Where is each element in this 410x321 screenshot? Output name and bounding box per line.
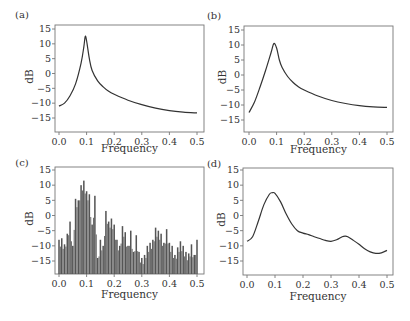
bar: [76, 207, 77, 274]
y-tick-label: 10: [228, 39, 240, 50]
x-axis-title: Frequency: [101, 288, 158, 300]
bar: [187, 260, 188, 274]
x-axis: 0.00.10.20.30.40.5: [51, 274, 204, 289]
bar: [107, 224, 108, 274]
bar: [163, 243, 165, 274]
y-tick-label: 10: [39, 38, 51, 49]
bar: [176, 259, 177, 274]
bar: [169, 243, 171, 274]
bar: [98, 256, 99, 274]
bar: [78, 200, 80, 274]
bar: [91, 225, 93, 274]
bar: [133, 252, 135, 274]
bar: [85, 194, 86, 274]
bar: [165, 244, 166, 274]
bar: [156, 237, 157, 274]
x-tick-label: 0.5: [189, 278, 204, 289]
x-tick-label: 0.0: [241, 136, 256, 147]
bar: [159, 240, 160, 274]
bar: [80, 185, 82, 274]
bar: [147, 246, 149, 274]
bar: [130, 231, 132, 274]
bar: [184, 256, 185, 274]
bar: [83, 181, 85, 274]
x-axis-title: Frequency: [290, 143, 347, 155]
x-axis-title: Frequency: [101, 142, 158, 154]
bar: [110, 228, 111, 274]
y-tick-label: −10: [220, 99, 240, 110]
bar: [179, 252, 180, 274]
bar: [126, 247, 127, 274]
bar: [195, 255, 196, 274]
bar: [58, 240, 60, 274]
bar: [68, 235, 69, 274]
panel-label: (b): [207, 10, 221, 21]
y-tick-label: 15: [227, 164, 239, 175]
y-tick-label: −15: [219, 255, 239, 266]
spectrum-line: [59, 36, 197, 113]
bar: [173, 258, 174, 274]
bar: [123, 237, 124, 274]
x-tick-label: 0.2: [295, 279, 310, 290]
bar: [177, 247, 179, 274]
bar: [105, 211, 107, 274]
figure: −15−10−50510150.00.10.20.30.40.5Frequenc…: [0, 0, 410, 321]
bar: [94, 196, 96, 274]
y-tick-label: −5: [225, 225, 239, 236]
bar: [96, 234, 97, 274]
bar: [144, 255, 146, 274]
bar: [148, 252, 149, 274]
bar: [112, 229, 113, 274]
bar: [86, 191, 88, 274]
bar: [138, 252, 140, 274]
bar: [121, 244, 122, 274]
spectrum-line: [247, 192, 387, 253]
y-tick-label: 15: [39, 23, 51, 34]
panel-b: −15−10−50510150.00.10.20.30.40.5Frequenc…: [207, 10, 395, 155]
axes-frame: [243, 168, 393, 275]
bar: [87, 200, 88, 274]
y-axis-title: dB: [215, 212, 227, 227]
x-tick-label: 0.4: [162, 278, 177, 289]
y-tick-label: 5: [233, 195, 239, 206]
panel-label: (c): [15, 157, 29, 168]
bar: [136, 235, 138, 274]
bar: [72, 246, 74, 274]
y-tick-label: −5: [37, 83, 51, 94]
bar: [190, 256, 191, 274]
bar: [65, 247, 66, 274]
bar: [158, 231, 160, 274]
y-tick-label: −15: [31, 112, 51, 123]
bar: [116, 240, 118, 274]
x-tick-label: 0.4: [162, 136, 177, 147]
bar: [122, 226, 124, 274]
bar: [69, 222, 71, 274]
bar: [185, 252, 187, 274]
bar: [100, 240, 102, 274]
bar: [63, 249, 64, 274]
bar: [113, 225, 115, 274]
y-tick-label: −5: [226, 84, 240, 95]
y-tick-label: −15: [220, 114, 240, 125]
bar: [140, 263, 141, 274]
x-axis-title: Frequency: [290, 290, 347, 302]
y-tick-label: 0: [233, 210, 239, 221]
bar: [196, 240, 198, 274]
bar: [182, 246, 184, 274]
bar: [118, 250, 119, 274]
bar: [90, 217, 91, 274]
x-axis: 0.00.10.20.30.40.5: [239, 275, 394, 290]
bar: [155, 228, 157, 274]
bar: [82, 190, 83, 274]
y-tick-label: 0: [234, 69, 240, 80]
bar: [119, 246, 121, 274]
y-tick-label: 15: [228, 24, 240, 35]
bar: [152, 240, 154, 274]
bar: [60, 247, 61, 274]
x-tick-label: 0.5: [379, 136, 394, 147]
panel-a: −15−10−50510150.00.10.20.30.40.5Frequenc…: [15, 9, 204, 154]
y-tick-label: 10: [227, 179, 239, 190]
y-axis-title: dB: [23, 211, 35, 226]
bar: [104, 236, 105, 274]
bar: [137, 251, 138, 274]
